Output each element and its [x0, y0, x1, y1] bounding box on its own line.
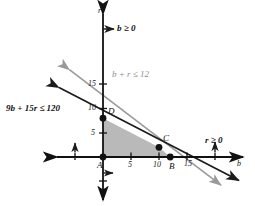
y-tick-label-10: 10 — [88, 103, 96, 112]
constraint-label-r-nonneg: r ≥ 0 — [205, 135, 222, 145]
constraint-label-total: b + r ≤ 12 — [112, 69, 149, 79]
vertex-label-c: C — [163, 133, 169, 143]
vertex-point-c — [156, 144, 163, 151]
vertex-label-a: A — [97, 160, 103, 170]
feasible-region-shading — [103, 118, 170, 157]
vertex-point-b — [167, 154, 174, 161]
constraint-label-b-nonneg: b ≥ 0 — [117, 23, 135, 33]
y-tick-label-15: 15 — [88, 79, 96, 88]
constraint-line-capacity — [59, 88, 239, 181]
y-axis-label: r — [98, 6, 101, 15]
linear-programming-graph: r b 5 10 15 5 10 15 A B C D 9b + 15r ≤ 1… — [0, 0, 255, 206]
vertex-label-d: D — [108, 106, 115, 116]
x-tick-label-10: 10 — [153, 160, 161, 169]
x-tick-label-15: 15 — [184, 159, 192, 168]
constraint-label-capacity: 9b + 15r ≤ 120 — [6, 103, 60, 113]
x-tick-label-5: 5 — [128, 160, 132, 169]
vertex-label-b: B — [169, 161, 175, 171]
vertex-point-d — [100, 115, 107, 122]
x-axis-label: b — [237, 159, 241, 168]
y-tick-label-5: 5 — [91, 128, 95, 137]
